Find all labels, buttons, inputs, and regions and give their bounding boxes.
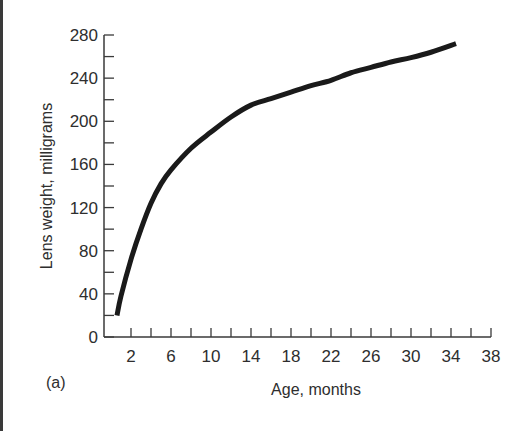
y-tick-label: 80 (79, 242, 98, 261)
lens-weight-curve (117, 44, 456, 316)
x-tick-label: 18 (282, 347, 301, 366)
x-tick-label: 2 (126, 347, 135, 366)
x-tick-label: 34 (442, 347, 461, 366)
panel-label: (a) (46, 374, 66, 392)
x-tick-label: 14 (242, 347, 261, 366)
y-axis-title: Lens weight, milligrams (38, 103, 55, 269)
x-tick-label: 22 (322, 347, 341, 366)
y-tick-label: 0 (89, 328, 98, 347)
y-tick-label: 160 (70, 155, 98, 174)
y-tick-label: 200 (70, 112, 98, 131)
y-tick-label: 240 (70, 69, 98, 88)
y-tick-label: 40 (79, 285, 98, 304)
y-axis: 04080120160200240280 (70, 26, 114, 347)
x-tick-label: 38 (482, 347, 501, 366)
x-axis: 261014182226303438 (104, 328, 500, 366)
x-axis-title: Age, months (271, 381, 361, 398)
y-tick-label: 120 (70, 199, 98, 218)
y-tick-label: 280 (70, 26, 98, 45)
x-tick-label: 26 (362, 347, 381, 366)
x-tick-label: 10 (202, 347, 221, 366)
x-tick-label: 6 (166, 347, 175, 366)
x-tick-label: 30 (402, 347, 421, 366)
line-chart: 04080120160200240280 261014182226303438 … (0, 0, 532, 431)
